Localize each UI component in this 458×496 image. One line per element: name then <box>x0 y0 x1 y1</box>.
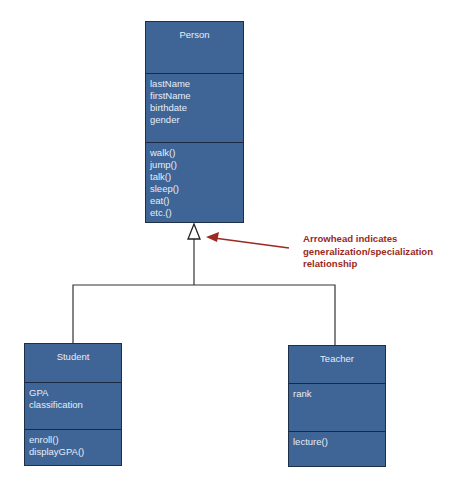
class-name: Teacher <box>289 346 385 383</box>
class-name: Student <box>25 344 121 382</box>
method: walk() <box>150 147 239 159</box>
annotation-line: generalization/specialization <box>303 246 433 259</box>
divider <box>146 73 243 74</box>
annotation-arrowhead-icon <box>206 232 219 242</box>
method: sleep() <box>150 183 239 195</box>
attributes-section: rank <box>289 385 385 431</box>
divider <box>289 383 385 384</box>
methods-section: walk() jump() talk() sleep() eat() etc.(… <box>146 144 243 222</box>
class-student: Student GPA classification enroll() disp… <box>24 343 122 466</box>
annotation-line: Arrowhead indicates <box>303 233 433 246</box>
class-title: Teacher <box>293 353 381 365</box>
annotation-line: relationship <box>303 258 433 271</box>
attributes-section: lastName firstName birthdate gender <box>146 75 243 142</box>
class-teacher: Teacher rank lecture() <box>288 345 386 467</box>
attributes-section: GPA classification <box>25 384 121 429</box>
attribute: lastName <box>150 78 239 90</box>
divider <box>289 431 385 432</box>
annotation-note: Arrowhead indicates generalization/speci… <box>303 233 433 271</box>
class-title: Student <box>29 351 117 363</box>
attribute: birthdate <box>150 102 239 114</box>
method: jump() <box>150 159 239 171</box>
attribute: rank <box>293 388 381 400</box>
method: etc.() <box>150 207 239 219</box>
attribute: GPA <box>29 387 117 399</box>
class-person: Person lastName firstName birthdate gend… <box>145 21 244 223</box>
attribute: firstName <box>150 90 239 102</box>
method: talk() <box>150 171 239 183</box>
divider <box>146 142 243 143</box>
methods-section: enroll() displayGPA() <box>25 431 121 465</box>
method: eat() <box>150 195 239 207</box>
divider <box>25 429 121 430</box>
generalization-connector <box>73 285 335 345</box>
class-title: Person <box>150 29 239 41</box>
class-name: Person <box>146 22 243 73</box>
method: displayGPA() <box>29 446 117 458</box>
divider <box>25 382 121 383</box>
attribute: classification <box>29 399 117 411</box>
hollow-triangle-arrowhead-icon <box>188 224 200 239</box>
annotation-arrow-shaft <box>214 238 289 248</box>
method: enroll() <box>29 434 117 446</box>
method: lecture() <box>293 436 381 448</box>
attribute: gender <box>150 114 239 126</box>
methods-section: lecture() <box>289 433 385 466</box>
